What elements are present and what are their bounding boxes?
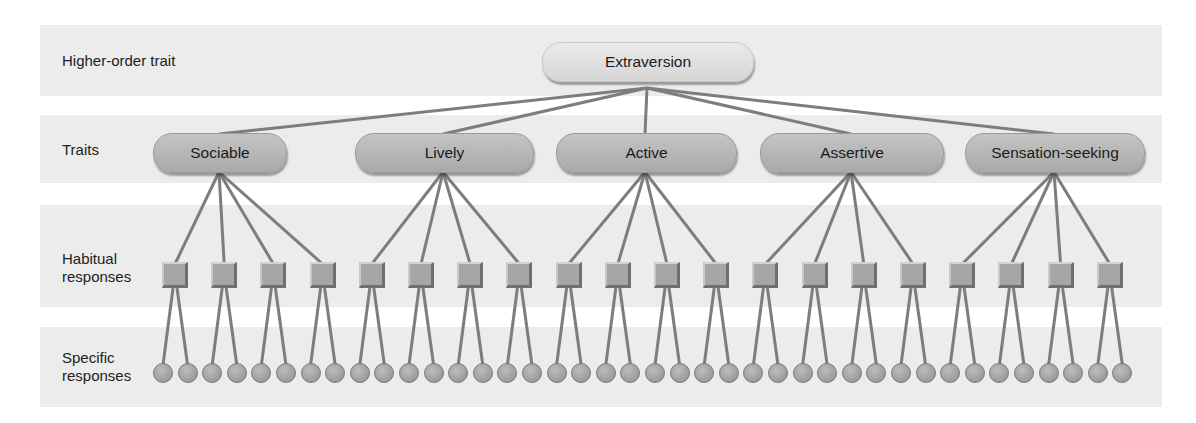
connector-line <box>219 172 224 264</box>
habitual-response-node <box>605 262 631 288</box>
connector-line <box>507 288 517 365</box>
connector-line <box>458 288 468 365</box>
specific-response-node <box>547 363 567 383</box>
connector-line <box>704 288 714 365</box>
trait-label: Assertive <box>820 144 884 162</box>
connector-line <box>1112 288 1123 365</box>
specific-response-node <box>670 363 690 383</box>
connector-line <box>753 288 763 365</box>
connector-line <box>1049 288 1059 365</box>
specific-response-node <box>473 363 493 383</box>
habitual-response-node <box>1048 262 1074 288</box>
specific-response-node <box>178 363 198 383</box>
habitual-response-node <box>260 262 286 288</box>
connector-line <box>1054 172 1110 264</box>
connector-line <box>1013 288 1024 365</box>
habitual-response-node <box>802 262 828 288</box>
habitual-response-node <box>162 262 188 288</box>
connector-line <box>423 288 434 365</box>
habitual-response-node <box>703 262 729 288</box>
connector-line <box>964 288 975 365</box>
connector-line <box>655 288 665 365</box>
connector-line <box>569 172 645 264</box>
trait-lively: Lively <box>355 133 534 173</box>
specific-response-node <box>350 363 370 383</box>
trait-active: Active <box>556 133 737 173</box>
connector-line <box>645 88 647 134</box>
specific-response-node <box>1088 363 1108 383</box>
node-extraversion-label: Extraversion <box>605 53 691 71</box>
specific-response-node <box>916 363 936 383</box>
connector-line <box>999 288 1009 365</box>
habitual-response-node <box>211 262 237 288</box>
specific-response-node <box>965 363 985 383</box>
connector-line <box>163 288 173 365</box>
specific-response-node <box>1014 363 1034 383</box>
connector-line <box>851 172 913 264</box>
connector-line <box>557 288 567 365</box>
specific-response-node <box>276 363 296 383</box>
habitual-response-node <box>900 262 926 288</box>
specific-response-node <box>399 363 419 383</box>
connector-line <box>866 288 877 365</box>
trait-label: Active <box>625 144 667 162</box>
connector-line <box>962 172 1054 264</box>
connector-line <box>212 288 222 365</box>
trait-label: Sociable <box>190 144 249 162</box>
connector-line <box>177 288 188 365</box>
connector-line <box>618 172 645 264</box>
connector-line <box>219 172 323 264</box>
specific-response-node <box>522 363 542 383</box>
habitual-response-node <box>752 262 778 288</box>
trait-label: Lively <box>425 144 465 162</box>
connector-line <box>261 288 271 365</box>
habitual-response-node <box>359 262 385 288</box>
connector-line <box>374 288 385 365</box>
specific-response-node <box>768 363 788 383</box>
connector-line <box>1011 172 1054 264</box>
node-extraversion: Extraversion <box>542 42 754 82</box>
connector-line <box>443 172 470 264</box>
connector-line <box>443 88 647 134</box>
specific-response-node <box>719 363 739 383</box>
connector-line <box>606 288 616 365</box>
connector-line <box>325 288 336 365</box>
connector-line <box>311 288 321 365</box>
specific-response-node <box>891 363 911 383</box>
connector-line <box>647 88 1054 134</box>
connector-line <box>669 288 680 365</box>
trait-label: Sensation-seeking <box>991 144 1119 162</box>
connector-line <box>443 172 519 264</box>
specific-response-node <box>424 363 444 383</box>
trait-assertive: Assertive <box>760 133 944 173</box>
connector-line <box>620 288 631 365</box>
connector-line <box>571 288 582 365</box>
connector-line <box>409 288 419 365</box>
connector-line <box>521 288 532 365</box>
specific-response-node <box>153 363 173 383</box>
connector-line <box>175 172 219 264</box>
connector-line <box>765 172 851 264</box>
specific-response-node <box>793 363 813 383</box>
connector-line <box>901 288 911 365</box>
connector-line <box>472 288 483 365</box>
habitual-response-node <box>556 262 582 288</box>
connector-line <box>1054 172 1061 264</box>
specific-response-node <box>645 363 665 383</box>
connector-line <box>915 288 926 365</box>
habitual-response-node <box>506 262 532 288</box>
habitual-response-node <box>310 262 336 288</box>
specific-response-node <box>1039 363 1059 383</box>
specific-response-node <box>596 363 616 383</box>
trait-sensation-seeking: Sensation-seeking <box>965 133 1145 173</box>
habitual-response-node <box>1097 262 1123 288</box>
specific-response-node <box>301 363 321 383</box>
connector-line <box>647 88 851 134</box>
connector-line <box>219 88 647 134</box>
connector-line <box>767 288 778 365</box>
habitual-response-node <box>949 262 975 288</box>
connector-line <box>1063 288 1074 365</box>
connector-line <box>360 288 370 365</box>
connector-line <box>817 288 828 365</box>
trait-sociable: Sociable <box>153 133 287 173</box>
